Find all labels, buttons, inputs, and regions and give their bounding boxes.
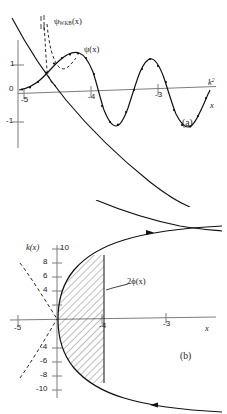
panel-a-psi-wkb-curve-left [44, 22, 56, 86]
panel-b-lower-arrowhead [150, 403, 158, 408]
panel-b-asymptote-lower [20, 319, 57, 378]
panel-b-ylabel-neg6: -6 [40, 357, 47, 365]
panel-b-y-axis-label: k(x) [26, 243, 39, 252]
figure-root: 0 1 -1 -5 -4 -3 k2 x ψWKB(x) ψ(x) (a) [0, 0, 227, 414]
panel-b-ylabel-neg10: -10 [36, 385, 48, 393]
panel-a: 0 1 -1 -5 -4 -3 k2 x ψWKB(x) ψ(x) (a) [0, 0, 227, 207]
panel-b-plot [0, 200, 227, 414]
panel-b-ylabel-neg8: -8 [40, 371, 47, 379]
panel-b-region-leader-line [106, 284, 128, 290]
panel-a-x-axis-label: x [210, 101, 214, 110]
panel-b-x-axis-label: x [205, 324, 209, 333]
panel-a-xlabel-neg4: -4 [88, 93, 95, 101]
panel-b-x-axis [10, 317, 216, 320]
panel-a-k2-curve [12, 18, 190, 207]
panel-a-ylabel-neg1: -1 [6, 117, 13, 125]
panel-b-xlabel-neg3: -3 [163, 320, 170, 328]
panel-a-psi-wkb-spike-marks [41, 15, 44, 30]
psi-argument: (x) [89, 44, 99, 54]
panel-b-region-label: 2ϕ(x) [127, 277, 146, 286]
panel-b: k(x) 10 8 6 4 -4 -6 -8 -10 -5 -4 -3 x 2ϕ… [0, 200, 227, 414]
panel-b-asymptote-upper [20, 263, 57, 319]
panel-a-psi-exact-label: ψ(x) [84, 45, 99, 54]
panel-a-caption: (a) [182, 119, 193, 129]
panel-a-ylabel-1: 1 [10, 60, 14, 68]
panel-a-x-axis [18, 87, 216, 94]
panel-b-upper-continuation-curve [96, 200, 222, 231]
panel-b-shaded-region [58, 255, 104, 383]
panel-b-ylabel-10: 10 [60, 244, 69, 252]
psi-wkb-subscript: WKB [59, 20, 72, 26]
panel-a-plot [0, 0, 227, 207]
panel-b-ylabel-8: 8 [43, 258, 47, 266]
k2-exponent: 2 [212, 77, 215, 83]
panel-a-ylabel-0: 0 [9, 85, 13, 93]
panel-b-xlabel-neg4: -4 [99, 322, 106, 330]
panel-a-xlabel-neg5: -5 [21, 96, 28, 104]
psi-wkb-argument: (x) [72, 16, 82, 26]
panel-b-xlabel-neg5: -5 [14, 324, 21, 332]
panel-b-ylabel-neg4: -4 [40, 343, 47, 351]
panel-a-k2-axis-label: k2 [208, 78, 215, 87]
panel-b-caption: (b) [180, 352, 191, 362]
panel-a-psi-wkb-label: ψWKB(x) [54, 17, 82, 26]
panel-a-xlabel-neg3: -3 [155, 91, 162, 99]
region-label-argument: (x) [136, 276, 146, 286]
panel-b-ylabel-6: 6 [43, 272, 47, 280]
panel-a-psi-wkb-curve-right [47, 24, 76, 69]
panel-b-ylabel-4: 4 [43, 286, 47, 294]
